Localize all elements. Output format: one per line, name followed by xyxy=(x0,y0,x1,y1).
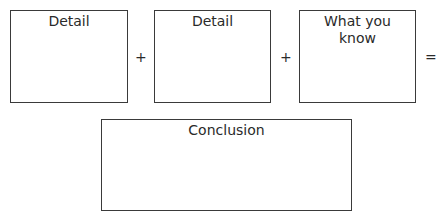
what-you-know-box: What you know xyxy=(299,10,416,103)
detail-box-2: Detail xyxy=(154,10,271,103)
conclusion-label: Conclusion xyxy=(102,122,351,139)
detail-box-2-label: Detail xyxy=(155,13,270,30)
detail-box-1-label: Detail xyxy=(11,13,127,30)
equals-operator: = xyxy=(425,50,437,64)
plus-operator-1: + xyxy=(135,50,147,64)
what-you-know-label: What you know xyxy=(300,13,415,47)
detail-box-1: Detail xyxy=(10,10,128,103)
conclusion-box: Conclusion xyxy=(101,119,352,211)
plus-operator-2: + xyxy=(280,50,292,64)
